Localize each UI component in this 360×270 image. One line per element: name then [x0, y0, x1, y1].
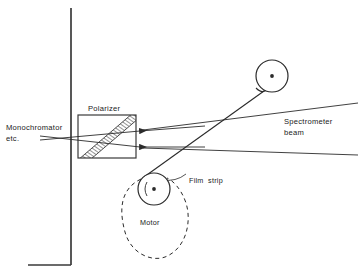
label-monochromator-line1: Monochromator	[6, 123, 63, 132]
label-motor: Motor	[140, 218, 160, 227]
beam-lower-to-monochromator	[40, 136, 140, 147]
wall-group	[28, 8, 71, 265]
polarizer-hatched-band	[78, 113, 139, 165]
label-film-strip: Film strip	[189, 176, 223, 185]
diagram-canvas: Monochromator etc. Polarizer Spectromete…	[0, 0, 360, 270]
lower-pulley-group	[138, 173, 170, 205]
upper-pulley-hub-icon	[270, 74, 274, 78]
label-polarizer: Polarizer	[88, 104, 120, 113]
beam-upper-to-monochromator	[40, 131, 140, 140]
upper-pulley-group	[256, 60, 288, 92]
film-strip-line	[144, 91, 264, 177]
beam-upper-arrow	[140, 126, 205, 131]
label-spectrometer-line2: beam	[284, 128, 304, 137]
label-monochromator-line2: etc.	[6, 134, 19, 143]
schematic-svg: Monochromator etc. Polarizer Spectromete…	[0, 0, 360, 270]
label-spectrometer-line1: Spectrometer	[284, 117, 333, 126]
film-strip-group	[144, 88, 266, 180]
lower-pulley-hub-icon	[152, 187, 156, 191]
polarizer-group	[78, 113, 139, 165]
